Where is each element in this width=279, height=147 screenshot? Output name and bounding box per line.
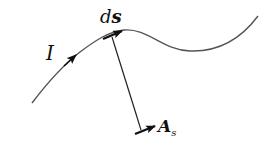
ds-vector: s (112, 6, 122, 27)
wire-curve (32, 16, 258, 103)
ds-label: ds (100, 6, 122, 27)
vector-potential-arrow (135, 126, 155, 134)
ds-prefix: d (100, 6, 112, 27)
vector-potential-label: As (158, 116, 176, 138)
diagram-canvas (0, 0, 279, 147)
position-line (112, 37, 141, 130)
current-direction-arrow (64, 55, 76, 66)
current-label: I (46, 41, 54, 65)
potential-subscript: s (171, 127, 176, 138)
potential-symbol: A (158, 116, 171, 136)
